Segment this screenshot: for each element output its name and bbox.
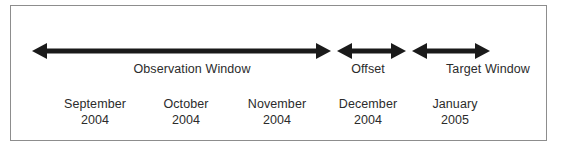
month-label-january-2005: January 2005	[405, 96, 505, 128]
observation-window-arrow	[32, 40, 331, 62]
month-name: January	[405, 96, 505, 112]
timeline-diagram: Observation Window Offset Target Window …	[0, 0, 563, 151]
month-name: November	[227, 96, 327, 112]
month-label-october-2004: October 2004	[136, 96, 236, 128]
target-window-arrow	[412, 40, 490, 62]
month-name: December	[318, 96, 418, 112]
month-name: September	[45, 96, 145, 112]
segment-label-observation-window: Observation Window	[92, 62, 292, 76]
month-year: 2004	[45, 112, 145, 128]
month-year: 2004	[136, 112, 236, 128]
month-name: October	[136, 96, 236, 112]
month-label-december-2004: December 2004	[318, 96, 418, 128]
offset-arrow	[337, 40, 406, 62]
month-label-september-2004: September 2004	[45, 96, 145, 128]
month-year: 2004	[318, 112, 418, 128]
segment-label-target-window: Target Window	[388, 62, 563, 76]
month-label-november-2004: November 2004	[227, 96, 327, 128]
month-year: 2004	[227, 112, 327, 128]
month-year: 2005	[405, 112, 505, 128]
